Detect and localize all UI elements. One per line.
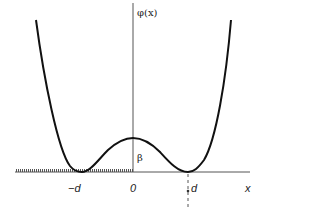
tick-label-zero: 0	[130, 183, 136, 194]
tick-label-neg-d: −d	[68, 183, 81, 194]
x-axis-label: x	[245, 183, 251, 194]
barrier-height-label: β	[137, 153, 143, 163]
tick-label-pos-d: d	[191, 183, 197, 194]
y-axis-label: φ(x)	[137, 8, 157, 18]
d-marker-dot	[187, 190, 190, 193]
